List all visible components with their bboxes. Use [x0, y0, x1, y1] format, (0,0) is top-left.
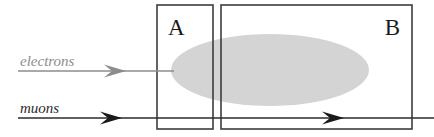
shower-ellipse: [171, 34, 369, 106]
region-a-label: A: [168, 15, 185, 40]
electron-beam-group: electrons: [18, 53, 174, 78]
electron-beam-label: electrons: [20, 53, 75, 69]
muon-beam-label: muons: [20, 100, 59, 116]
physics-detector-diagram: A B electrons muons: [0, 0, 434, 137]
region-b-label: B: [385, 15, 400, 40]
muon-beam-group: muons: [18, 100, 434, 125]
diagram-canvas: A B electrons muons: [0, 0, 434, 137]
